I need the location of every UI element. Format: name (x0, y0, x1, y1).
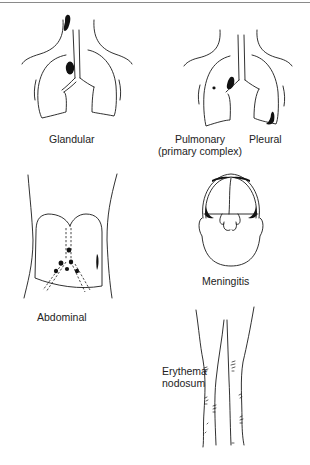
label-abdominal: Abdominal (37, 311, 87, 323)
abdominal-illustration (24, 174, 117, 298)
figure-illustrations (0, 0, 310, 465)
pulmonary-pleural-chest-illustration (184, 30, 292, 126)
meningitis-head-illustration (199, 174, 263, 266)
label-primary-complex: (primary complex) (158, 145, 242, 157)
glandular-chest-illustration (22, 15, 132, 118)
label-glandular: Glandular (49, 133, 95, 145)
label-pleural: Pleural (249, 133, 282, 145)
label-nodosum: nodosum (162, 377, 205, 389)
label-erythema: Erythema (162, 365, 207, 377)
label-meningitis: Meningitis (202, 275, 249, 287)
label-pulmonary: Pulmonary (158, 133, 242, 145)
